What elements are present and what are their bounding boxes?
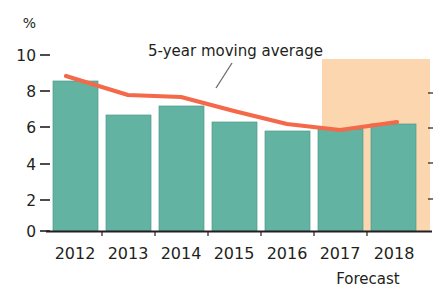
x-label-2015: 2015 [214, 244, 255, 263]
bar-chart: % 10 8 6 4 2 0 [0, 0, 435, 289]
bar-2012 [53, 81, 98, 231]
x-label-2014: 2014 [161, 244, 202, 263]
y-axis-label-6: 6 [26, 119, 36, 137]
y-axis-label-10: 10 [16, 47, 36, 65]
x-label-2018: 2018 [374, 244, 415, 263]
bar-2014 [159, 106, 204, 231]
y-axis-label-4: 4 [26, 156, 36, 174]
chart-container: % 10 8 6 4 2 0 [0, 0, 435, 289]
bar-2017 [318, 129, 363, 231]
moving-average-callout-label: 5-year moving average [148, 42, 323, 60]
bar-2018 [371, 124, 416, 231]
bar-2013 [106, 115, 151, 231]
bar-2016 [265, 131, 310, 231]
y-axis-label-2: 2 [26, 192, 36, 210]
x-label-2012: 2012 [55, 244, 96, 263]
x-label-2017: 2017 [320, 244, 361, 263]
y-axis-label-8: 8 [26, 83, 36, 101]
x-label-2013: 2013 [108, 244, 149, 263]
x-label-2016: 2016 [267, 244, 308, 263]
y-axis-label-0: 0 [26, 223, 36, 241]
bar-2015 [212, 122, 257, 231]
forecast-caption: Forecast [336, 270, 400, 288]
y-axis-unit-label: % [23, 15, 36, 31]
